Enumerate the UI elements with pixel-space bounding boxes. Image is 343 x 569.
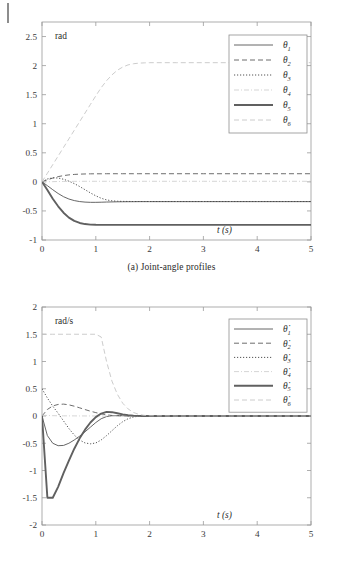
svg-text:5: 5 <box>309 529 314 539</box>
svg-text:-1: -1 <box>29 235 37 245</box>
svg-text:2: 2 <box>32 61 37 71</box>
figure-page: 2.521.510.50-0.5-1012345radt (s)θ1θ2θ3θ4… <box>0 0 343 569</box>
chart-b-svg: 21.510.50-0.5-1-1.5-2012345rad/st (s)θ̇1… <box>0 285 343 547</box>
svg-text:2: 2 <box>147 244 152 254</box>
svg-text:3: 3 <box>201 529 206 539</box>
svg-text:1.5: 1.5 <box>26 90 38 100</box>
svg-text:0: 0 <box>32 177 37 187</box>
svg-text:4: 4 <box>255 529 260 539</box>
caption-a: (a) Joint-angle profiles <box>0 262 343 272</box>
svg-text:rad/s: rad/s <box>55 316 74 326</box>
svg-text:2: 2 <box>32 302 37 312</box>
svg-text:0: 0 <box>40 244 45 254</box>
svg-text:0: 0 <box>40 529 45 539</box>
svg-text:0.5: 0.5 <box>26 148 38 158</box>
svg-text:5: 5 <box>309 244 314 254</box>
svg-text:4: 4 <box>255 244 260 254</box>
svg-text:t (s): t (s) <box>217 225 232 236</box>
svg-text:1.5: 1.5 <box>26 330 38 340</box>
svg-text:2.5: 2.5 <box>26 32 38 42</box>
svg-text:1: 1 <box>32 357 37 367</box>
svg-text:1: 1 <box>94 529 99 539</box>
svg-text:1: 1 <box>94 244 99 254</box>
svg-text:1: 1 <box>32 119 37 129</box>
panel-joint-angle: 2.521.510.50-0.5-1012345radt (s)θ1θ2θ3θ4… <box>0 0 343 285</box>
svg-text:-1: -1 <box>29 466 37 476</box>
svg-text:3: 3 <box>201 244 206 254</box>
svg-text:0: 0 <box>32 411 37 421</box>
svg-text:-0.5: -0.5 <box>22 206 37 216</box>
svg-text:-0.5: -0.5 <box>22 439 37 449</box>
svg-text:2: 2 <box>147 529 152 539</box>
svg-text:rad: rad <box>55 31 67 41</box>
svg-text:t (s): t (s) <box>217 510 232 521</box>
chart-a-svg: 2.521.510.50-0.5-1012345radt (s)θ1θ2θ3θ4… <box>0 0 343 262</box>
svg-text:0.5: 0.5 <box>26 384 38 394</box>
panel-joint-velocity: 21.510.50-0.5-1-1.5-2012345rad/st (s)θ̇1… <box>0 285 343 569</box>
svg-text:-1.5: -1.5 <box>22 493 37 503</box>
svg-text:-2: -2 <box>29 520 37 530</box>
